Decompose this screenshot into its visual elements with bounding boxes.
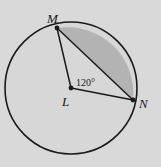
point-n-label: N — [139, 97, 148, 110]
point-m-label: M — [47, 12, 58, 25]
point-n-dot — [131, 98, 136, 103]
central-angle-label: 120° — [76, 78, 95, 88]
geometry-figure: M L N 120° — [0, 0, 161, 167]
center-point-l-dot — [69, 86, 74, 91]
center-point-l-label: L — [62, 95, 69, 108]
point-m-dot — [55, 26, 60, 31]
